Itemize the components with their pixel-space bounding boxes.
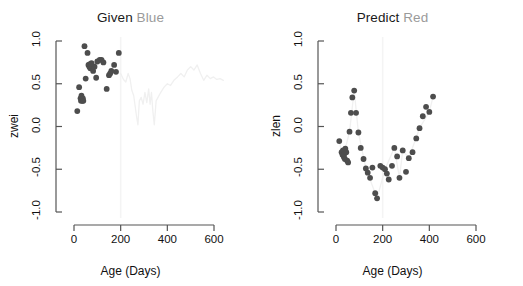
data-point [82, 43, 88, 49]
data-point [356, 130, 362, 136]
data-point [347, 129, 353, 135]
data-point [397, 175, 403, 181]
data-point [76, 84, 82, 90]
data-point [111, 62, 117, 68]
data-point [391, 145, 397, 151]
data-point [426, 109, 432, 115]
data-point [365, 170, 371, 176]
data-point [372, 190, 378, 196]
panel-predict-red: Predict Red Age (Days) zlen -1.0-0.50.00… [262, 0, 523, 286]
data-point [104, 86, 110, 92]
x-axis-label-left: Age (Days) [0, 264, 261, 278]
y-tick-label: 1.0 [30, 23, 42, 55]
data-point [420, 113, 426, 119]
data-point [367, 175, 373, 181]
data-point [358, 145, 364, 151]
data-point [345, 160, 351, 166]
data-point [417, 125, 423, 131]
y-tick-label: -0.5 [292, 151, 304, 183]
data-point [93, 75, 99, 81]
faint-trend-line [339, 91, 433, 199]
data-point [353, 110, 359, 116]
data-point [85, 50, 91, 56]
data-point [336, 138, 342, 144]
data-point [361, 156, 367, 162]
y-axis-label-right: zlen [269, 96, 283, 156]
data-point [113, 69, 119, 75]
data-point [406, 155, 412, 161]
x-axis-label-right: Age (Days) [262, 264, 523, 278]
y-tick-label: 0.0 [292, 109, 304, 141]
x-tick-label: 0 [316, 233, 356, 245]
y-tick-label: -0.5 [30, 151, 42, 183]
y-tick-label: -1.0 [292, 194, 304, 226]
data-point [386, 177, 392, 183]
faint-trend-line [121, 65, 224, 125]
y-axis-label-left: zwei [7, 96, 21, 156]
x-tick-label: 600 [194, 233, 234, 245]
data-point [430, 94, 436, 100]
data-point [116, 50, 122, 56]
data-point [384, 171, 390, 177]
data-point [410, 149, 416, 155]
y-tick-label: 0.0 [30, 109, 42, 141]
panel-given-blue: Given Blue Age (Days) zwei -1.0-0.50.00.… [0, 0, 261, 286]
data-point [83, 76, 89, 82]
data-point [349, 95, 355, 101]
y-tick-label: 0.5 [30, 66, 42, 98]
data-point [348, 110, 354, 116]
x-tick-label: 200 [101, 233, 141, 245]
data-point [403, 169, 409, 175]
data-point [400, 148, 406, 154]
data-point [343, 149, 349, 155]
y-tick-label: -1.0 [30, 194, 42, 226]
data-point [74, 108, 80, 114]
figure-container: Given Blue Age (Days) zwei -1.0-0.50.00.… [0, 0, 523, 286]
data-point [389, 163, 395, 169]
x-tick-label: 400 [409, 233, 449, 245]
data-point [351, 88, 357, 94]
x-tick-label: 200 [363, 233, 403, 245]
data-point [92, 64, 98, 70]
data-point [374, 195, 380, 201]
data-point [423, 104, 429, 110]
x-tick-label: 400 [147, 233, 187, 245]
data-point [101, 59, 107, 65]
data-point [394, 154, 400, 160]
data-point [80, 98, 86, 104]
data-point [413, 136, 419, 142]
y-tick-label: 0.5 [292, 66, 304, 98]
data-point [370, 165, 376, 171]
x-tick-label: 0 [54, 233, 94, 245]
y-tick-label: 1.0 [292, 23, 304, 55]
x-tick-label: 600 [456, 233, 496, 245]
